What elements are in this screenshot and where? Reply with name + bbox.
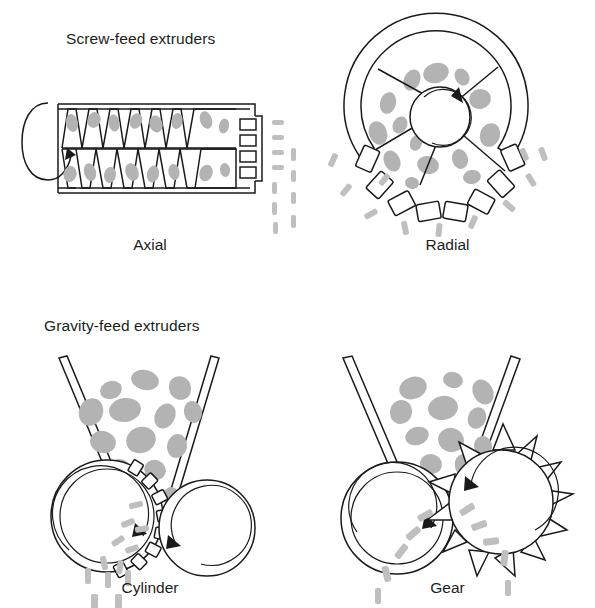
caption-cylinder: Cylinder <box>0 579 300 597</box>
figure-cylinder-extruder <box>25 350 295 578</box>
figure-radial-extruder <box>320 25 585 235</box>
caption-axial: Axial <box>0 236 300 254</box>
extrudate-strands <box>272 120 296 234</box>
diagram-page: Screw-feed extruders Gravity-feed extrud… <box>0 0 595 608</box>
caption-radial: Radial <box>300 236 595 254</box>
figure-gear-extruder <box>325 350 590 578</box>
pressure-roller <box>159 480 255 576</box>
die-plate <box>240 116 262 181</box>
heading-gravity-feed-extruders: Gravity-feed extruders <box>44 317 200 335</box>
perforated-cylinder <box>51 459 171 578</box>
rotating-hub <box>410 87 471 147</box>
caption-gear: Gear <box>300 579 595 597</box>
heading-screw-feed-extruders: Screw-feed extruders <box>66 30 215 48</box>
radial-assembly <box>327 13 548 237</box>
figure-axial-extruder <box>10 60 300 235</box>
